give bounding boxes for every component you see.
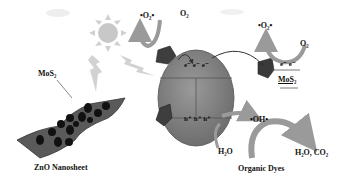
o2-label-right: O₂ (300, 40, 309, 48)
light-bolt-icon (88, 55, 102, 92)
sun-icon (89, 14, 127, 52)
zno-nanosheet (17, 98, 125, 158)
hole-oxidation-arrow (222, 113, 252, 116)
mos2-flake-right (258, 58, 274, 78)
products-label: H₂O, CO₂ (295, 149, 328, 157)
water-label: H₂O (218, 148, 233, 156)
holes-label: h⁺ h⁺ h⁺ (184, 116, 211, 123)
hydroxyl-label: •OH• (250, 116, 268, 124)
organic-dyes-label: Organic Dyes (238, 165, 284, 173)
zno-nanosheet-label: ZnO Nanosheet (34, 164, 88, 172)
electrons-zno-label: e⁻ e⁻ e⁻ (184, 62, 209, 69)
mos2-label-left: MoS₂ (38, 70, 56, 78)
superoxide-label-right: •O₂• (258, 22, 272, 30)
electrons-mos2-label: e⁻ e⁻ (280, 61, 296, 68)
superoxide-label-left: •O₂• (140, 12, 154, 20)
o2-reduction-arrow-left (140, 20, 160, 46)
cloud-icon (46, 9, 70, 17)
mos2-label-right: MoS₂ (278, 76, 296, 84)
mos2-pointer-line (57, 80, 72, 98)
o2-label-left: O₂ (180, 10, 189, 18)
light-bolt-icon (120, 55, 155, 76)
